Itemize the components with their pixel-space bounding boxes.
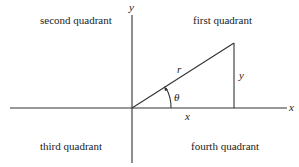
x-side-label: x bbox=[184, 110, 190, 122]
theta-label: θ bbox=[174, 91, 180, 103]
hypotenuse-r bbox=[132, 43, 234, 108]
angle-arc bbox=[166, 88, 171, 108]
polar-coordinates-diagram: x y r y x θ second quadrant first quadra… bbox=[0, 0, 299, 167]
y-axis-label: y bbox=[128, 1, 134, 13]
y-side-label: y bbox=[238, 69, 244, 81]
second-quadrant-label: second quadrant bbox=[40, 14, 112, 26]
first-quadrant-label: first quadrant bbox=[193, 14, 252, 26]
r-label: r bbox=[177, 63, 182, 75]
fourth-quadrant-label: fourth quadrant bbox=[191, 140, 259, 152]
x-axis-label: x bbox=[288, 101, 294, 113]
third-quadrant-label: third quadrant bbox=[40, 140, 102, 152]
